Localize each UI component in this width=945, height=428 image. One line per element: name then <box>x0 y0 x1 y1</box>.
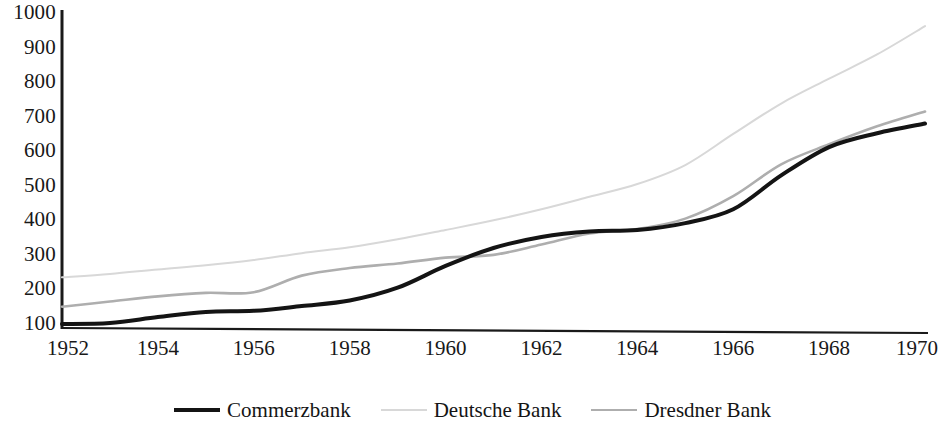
legend-label: Deutsche Bank <box>434 399 562 422</box>
x-tick-label: 1952 <box>33 337 103 359</box>
x-tick-label: 1970 <box>882 337 945 359</box>
series-line-deutsche-bank <box>62 26 925 277</box>
x-tick-label: 1956 <box>219 337 289 359</box>
x-tick-label: 1962 <box>506 337 576 359</box>
x-tick-label: 1964 <box>602 337 672 359</box>
x-axis-tick-labels: 1952195419561958196019621964196619681970 <box>0 337 945 367</box>
series-lines <box>62 26 925 324</box>
x-tick-label: 1958 <box>315 337 385 359</box>
legend-line-swatch <box>591 409 637 411</box>
chart-legend: CommerzbankDeutsche BankDresdner Bank <box>0 392 945 428</box>
legend-item-deutsche-bank[interactable]: Deutsche Bank <box>381 399 562 422</box>
x-tick-label: 1966 <box>698 337 768 359</box>
legend-line-swatch <box>174 408 220 412</box>
series-line-dresdner-bank <box>62 111 925 306</box>
legend-label: Commerzbank <box>227 399 351 422</box>
x-tick-label: 1960 <box>411 337 481 359</box>
legend-item-commerzbank[interactable]: Commerzbank <box>174 399 351 422</box>
x-axis-line <box>62 328 928 333</box>
x-tick-label: 1954 <box>123 337 193 359</box>
legend-line-swatch <box>381 409 427 411</box>
line-chart: 1002003004005006007008009001000 19521954… <box>0 0 945 428</box>
x-tick-label: 1968 <box>794 337 864 359</box>
legend-item-dresdner-bank[interactable]: Dresdner Bank <box>591 399 771 422</box>
axis-lines <box>62 10 928 333</box>
legend-label: Dresdner Bank <box>644 399 771 422</box>
